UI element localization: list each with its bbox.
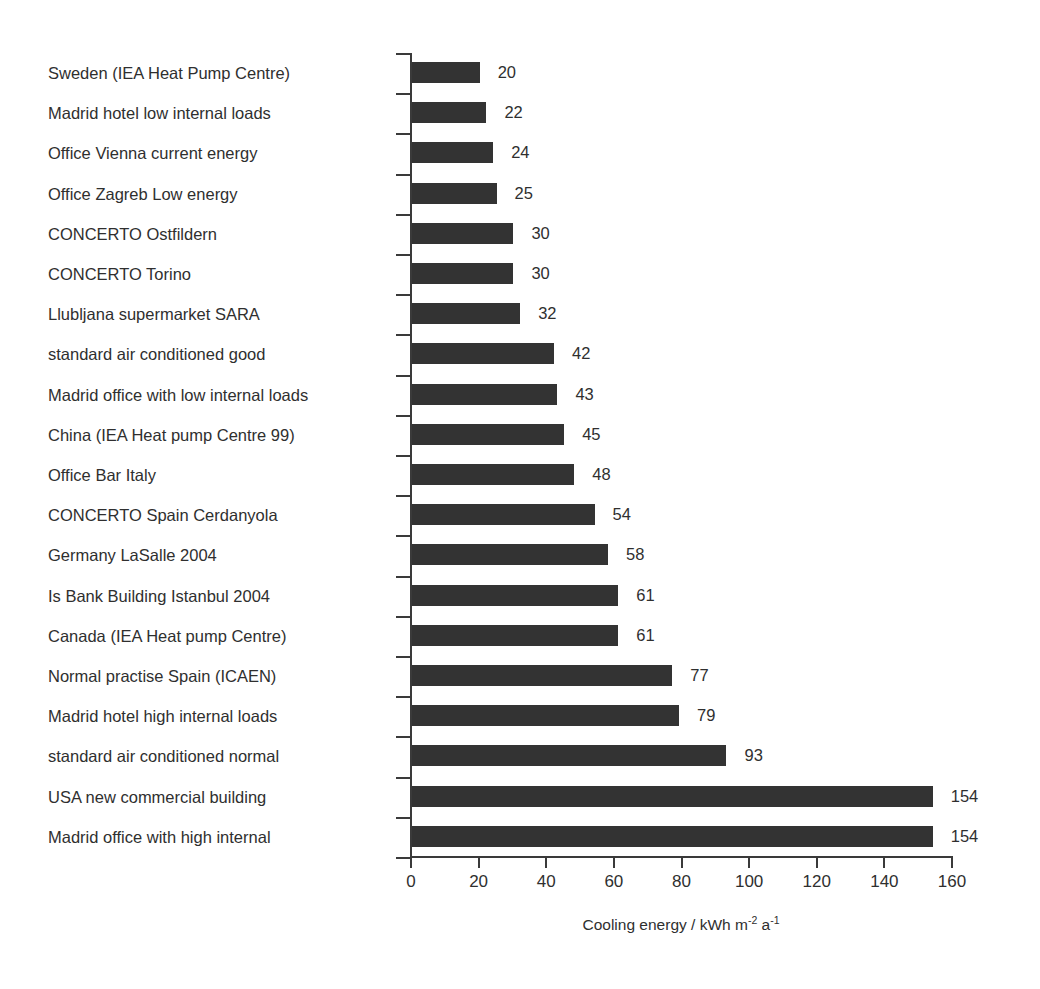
x-axis-tick-label: 0 [381, 872, 441, 892]
bar [412, 705, 679, 726]
x-axis-tick [883, 856, 885, 868]
bar-row: Office Vienna current energy24 [0, 133, 1040, 173]
bar-row: Office Bar Italy48 [0, 455, 1040, 495]
x-axis-tick [951, 856, 953, 868]
bar-track: 79 [412, 696, 1012, 736]
bar-row: USA new commercial building154 [0, 777, 1040, 817]
category-label-wrapper: Normal practise Spain (ICAEN) [50, 656, 400, 696]
bar [412, 665, 672, 686]
bar-track: 54 [412, 495, 1012, 535]
bar [412, 263, 513, 284]
bar-track: 32 [412, 294, 1012, 334]
x-axis-tick-label: 60 [584, 872, 644, 892]
bar-row: standard air conditioned good42 [0, 334, 1040, 374]
bar [412, 786, 933, 807]
bar [412, 826, 933, 847]
category-label-wrapper: Madrid office with high internal [50, 817, 400, 857]
category-label: CONCERTO Ostfildern [48, 214, 400, 254]
bar-row: Madrid office with high internal154 [0, 817, 1040, 857]
bar-row: Madrid hotel low internal loads22 [0, 93, 1040, 133]
bar [412, 464, 574, 485]
category-label: Office Zagreb Low energy [48, 174, 400, 214]
bar-value-label: 61 [636, 585, 654, 606]
x-axis-tick [613, 856, 615, 868]
bar-track: 20 [412, 53, 1012, 93]
bar-value-label: 93 [744, 745, 762, 766]
category-label-wrapper: Office Zagreb Low energy [50, 174, 400, 214]
bar-row: CONCERTO Ostfildern30 [0, 214, 1040, 254]
category-label: Madrid office with low internal loads [48, 375, 400, 415]
category-label-wrapper: Madrid office with low internal loads [50, 375, 400, 415]
bar [412, 544, 608, 565]
x-axis-tick-label: 140 [854, 872, 914, 892]
bar [412, 303, 520, 324]
category-tick [396, 857, 410, 859]
bar-row: Madrid hotel high internal loads79 [0, 696, 1040, 736]
category-label: Madrid office with high internal [48, 817, 400, 857]
x-axis-tick-label: 120 [787, 872, 847, 892]
x-axis-title-mid: a [757, 916, 770, 933]
category-label: Madrid hotel low internal loads [48, 93, 400, 133]
bar-row: CONCERTO Torino30 [0, 254, 1040, 294]
x-axis-tick [748, 856, 750, 868]
category-label: Sweden (IEA Heat Pump Centre) [48, 53, 400, 93]
cooling-energy-bar-chart: Sweden (IEA Heat Pump Centre)20Madrid ho… [0, 0, 1040, 989]
bar-track: 61 [412, 576, 1012, 616]
category-label-wrapper: standard air conditioned good [50, 334, 400, 374]
category-label: CONCERTO Spain Cerdanyola [48, 495, 400, 535]
category-label-wrapper: Sweden (IEA Heat Pump Centre) [50, 53, 400, 93]
bar [412, 102, 486, 123]
bar-track: 154 [412, 777, 1012, 817]
category-label-wrapper: Madrid hotel low internal loads [50, 93, 400, 133]
bar-value-label: 77 [690, 665, 708, 686]
category-label-wrapper: Germany LaSalle 2004 [50, 535, 400, 575]
bar-value-label: 30 [531, 223, 549, 244]
x-axis-tick-label: 80 [652, 872, 712, 892]
category-label: Office Bar Italy [48, 455, 400, 495]
x-axis-title-sup-annum: -1 [770, 914, 779, 926]
bar-value-label: 58 [626, 544, 644, 565]
category-label: China (IEA Heat pump Centre 99) [48, 415, 400, 455]
x-axis-title-sup-area: -2 [748, 914, 757, 926]
bar-track: 25 [412, 174, 1012, 214]
x-axis-tick [545, 856, 547, 868]
bar-track: 48 [412, 455, 1012, 495]
category-label: Office Vienna current energy [48, 133, 400, 173]
category-label-wrapper: CONCERTO Ostfildern [50, 214, 400, 254]
x-axis-tick-label: 20 [449, 872, 509, 892]
bar-value-label: 25 [515, 183, 533, 204]
category-label-wrapper: Office Vienna current energy [50, 133, 400, 173]
bar-row: CONCERTO Spain Cerdanyola54 [0, 495, 1040, 535]
bar [412, 504, 595, 525]
category-label-wrapper: standard air conditioned normal [50, 736, 400, 776]
category-label-wrapper: CONCERTO Torino [50, 254, 400, 294]
bar-track: 42 [412, 334, 1012, 374]
bar-row: Office Zagreb Low energy25 [0, 174, 1040, 214]
bar [412, 223, 513, 244]
bar-row: China (IEA Heat pump Centre 99)45 [0, 415, 1040, 455]
category-label-wrapper: USA new commercial building [50, 777, 400, 817]
category-label: USA new commercial building [48, 777, 400, 817]
bar [412, 183, 497, 204]
x-axis-tick [681, 856, 683, 868]
category-label: CONCERTO Torino [48, 254, 400, 294]
bar-track: 43 [412, 375, 1012, 415]
category-label: Is Bank Building Istanbul 2004 [48, 576, 400, 616]
x-axis-title: Cooling energy / kWh m-2 a-1 [410, 916, 952, 934]
bar [412, 625, 618, 646]
bar-track: 154 [412, 817, 1012, 857]
bar-value-label: 42 [572, 343, 590, 364]
bar-row: Llubljana supermarket SARA32 [0, 294, 1040, 334]
x-axis-title-lead: Cooling energy / kWh m [582, 916, 747, 933]
bar-value-label: 54 [613, 504, 631, 525]
bar [412, 424, 564, 445]
bar-value-label: 24 [511, 142, 529, 163]
category-label-wrapper: Madrid hotel high internal loads [50, 696, 400, 736]
bar [412, 343, 554, 364]
category-label-wrapper: Llubljana supermarket SARA [50, 294, 400, 334]
bar-track: 93 [412, 736, 1012, 776]
x-axis-tick-label: 160 [922, 872, 982, 892]
bar [412, 62, 480, 83]
bar [412, 384, 557, 405]
bar-row: Germany LaSalle 200458 [0, 535, 1040, 575]
